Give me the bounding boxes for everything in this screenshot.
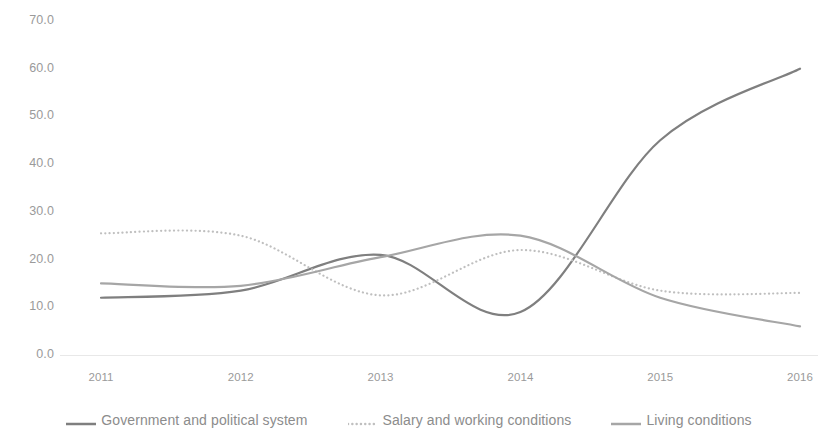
series-line-2 (101, 234, 800, 326)
legend-label-0: Government and political system (101, 412, 307, 428)
legend-swatch-icon-2 (611, 415, 641, 425)
series-line-0 (101, 69, 800, 316)
legend-swatch-icon-0 (66, 415, 96, 425)
legend-label-1: Salary and working conditions (383, 412, 572, 428)
chart-legend: Government and political systemSalary an… (0, 406, 818, 434)
legend-swatch-icon-1 (348, 415, 378, 425)
legend-item-1[interactable]: Salary and working conditions (348, 412, 572, 428)
legend-label-2: Living conditions (646, 412, 751, 428)
legend-item-0[interactable]: Government and political system (66, 412, 307, 428)
line-chart: 70.060.050.040.030.020.010.00.0 20112012… (0, 0, 818, 434)
legend-item-2[interactable]: Living conditions (611, 412, 751, 428)
plot-area (0, 0, 818, 434)
